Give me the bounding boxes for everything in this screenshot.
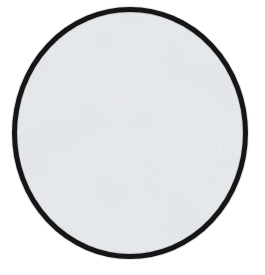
- textured-disc-image: [0, 0, 265, 275]
- scanned-image-canvas: [0, 0, 265, 275]
